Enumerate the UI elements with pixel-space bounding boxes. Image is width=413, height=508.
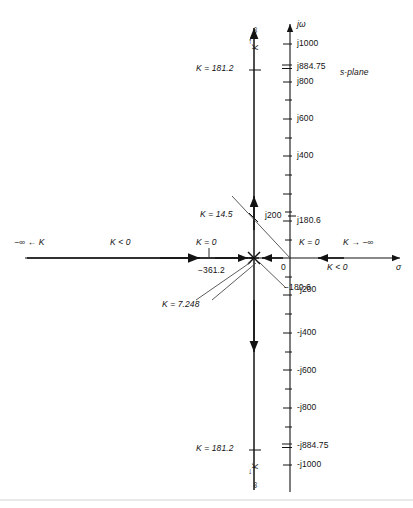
gain-label-neg-infinity-right: K → −∞ bbox=[343, 238, 374, 247]
gain-label-zero-right: K = 0 bbox=[299, 238, 320, 247]
leader-line-k-14-5 bbox=[232, 196, 291, 259]
tick-label-minus-j600: -j600 bbox=[297, 366, 316, 375]
gain-label-181-2-bottom: K = 181.2 bbox=[196, 444, 234, 453]
gain-label-zero-left: K = 0 bbox=[196, 238, 217, 247]
gain-infinity-bottom-arrow: ↓ bbox=[248, 467, 252, 476]
root-locus-figure: jω σ s-plane j1000 j884.75 j800 j600 j40… bbox=[0, 0, 413, 508]
tick-label-j1000: j1000 bbox=[297, 39, 318, 48]
gain-infinity-bottom-symbol: ∞ bbox=[251, 482, 260, 488]
tick-label-minus-j884-75: -j884.75 bbox=[297, 441, 329, 450]
tick-label-j400: j400 bbox=[297, 151, 313, 160]
tick-label-j180-6: j180.6 bbox=[297, 216, 321, 225]
tick-label-j600: j600 bbox=[297, 114, 313, 123]
real-axis-label: σ bbox=[396, 263, 401, 272]
gain-label-negative-right: K < 0 bbox=[327, 263, 348, 272]
imaginary-axis-label: jω bbox=[297, 20, 306, 29]
pole-label-minus-361-2: −361.2 bbox=[198, 266, 225, 275]
gain-marker-ticks bbox=[249, 70, 261, 450]
gain-label-negative-left: K < 0 bbox=[110, 238, 131, 247]
gain-label-181-2-top: K = 181.2 bbox=[196, 64, 234, 73]
tick-label-minus-j1000: -j1000 bbox=[297, 460, 321, 469]
gain-label-14-5: K = 14.5 bbox=[200, 210, 233, 219]
pole-label-minus-180-6: −180.6 bbox=[284, 283, 311, 292]
tick-label-j800: j800 bbox=[297, 77, 313, 86]
tick-label-j884-75: j884.75 bbox=[297, 62, 326, 71]
tick-label-minus-j800: -j800 bbox=[297, 403, 316, 412]
gain-infinity-top-symbol: ∞ bbox=[251, 27, 260, 33]
gain-label-neg-infinity-left: −∞ ← K bbox=[14, 238, 45, 247]
gain-infinity-top-arrow: ↑ bbox=[248, 37, 252, 46]
s-plane-label: s-plane bbox=[340, 68, 369, 77]
tick-label-j200-left: j200 bbox=[265, 211, 281, 220]
tick-label-minus-j400: -j400 bbox=[297, 328, 316, 337]
gain-label-7-248: K = 7.248 bbox=[162, 300, 200, 309]
origin-label: 0 bbox=[281, 263, 286, 272]
